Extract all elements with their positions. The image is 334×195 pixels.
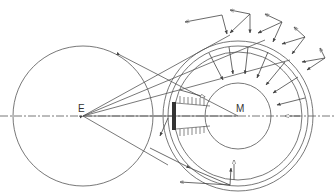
diagram-canvas: E M xyxy=(0,0,334,195)
radial-arrows xyxy=(209,47,305,105)
contact-bar xyxy=(172,102,176,130)
hatch-lower xyxy=(176,126,210,136)
bottom-vectors xyxy=(150,148,231,185)
rays-from-e xyxy=(83,35,290,165)
hollow-arrow-upper xyxy=(180,90,205,97)
label-e: E xyxy=(78,103,85,114)
label-m: M xyxy=(236,103,244,114)
hatch-upper xyxy=(176,96,210,106)
small-arrow-left xyxy=(160,118,168,136)
